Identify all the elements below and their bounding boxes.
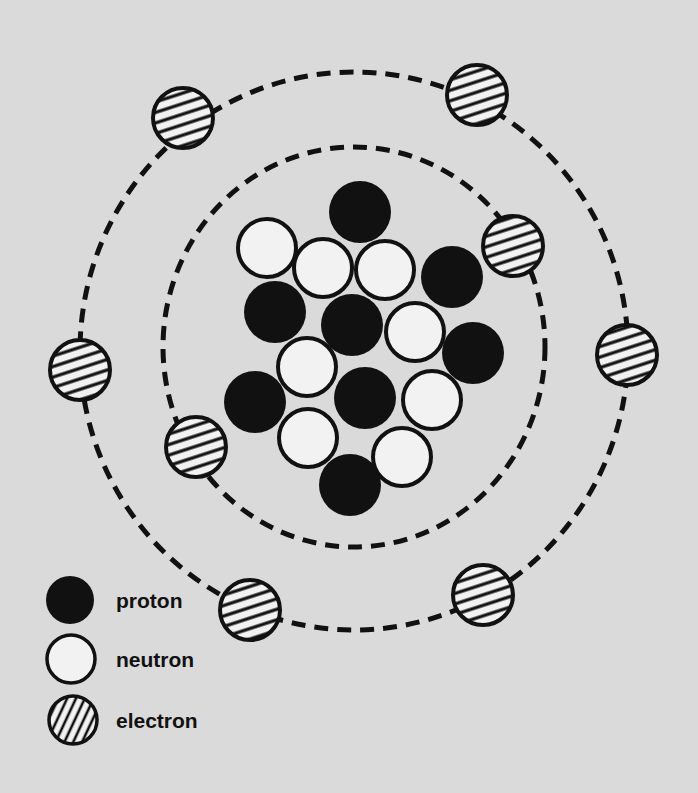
neutron-icon — [373, 428, 431, 486]
neutron-legend-icon — [47, 635, 95, 683]
neutron-icon — [403, 371, 461, 429]
electron-icon — [447, 65, 507, 125]
neutron-icon — [279, 409, 337, 467]
atom-diagram: protonneutronelectron — [0, 0, 698, 793]
proton-legend-label: proton — [116, 589, 182, 612]
proton-icon — [244, 281, 306, 343]
legend: protonneutronelectron — [46, 576, 198, 744]
electron-icon — [153, 88, 213, 148]
neutron-icon — [238, 219, 296, 277]
electron-icon — [483, 216, 543, 276]
proton-icon — [329, 181, 391, 243]
electron-icon — [597, 325, 657, 385]
electron-icon — [220, 580, 280, 640]
proton-icon — [442, 322, 504, 384]
proton-icon — [224, 371, 286, 433]
nucleus — [224, 181, 504, 516]
proton-icon — [319, 454, 381, 516]
neutron-legend-label: neutron — [116, 648, 194, 671]
proton-icon — [421, 246, 483, 308]
neutron-icon — [356, 241, 414, 299]
electron-icon — [453, 565, 513, 625]
neutron-icon — [386, 303, 444, 361]
electron-icon — [50, 340, 110, 400]
electron-legend-label: electron — [116, 709, 198, 732]
proton-icon — [321, 294, 383, 356]
proton-icon — [334, 367, 396, 429]
electron-legend-icon — [49, 696, 97, 744]
electron-icon — [166, 417, 226, 477]
neutron-icon — [278, 338, 336, 396]
proton-legend-icon — [46, 576, 94, 624]
neutron-icon — [294, 239, 352, 297]
